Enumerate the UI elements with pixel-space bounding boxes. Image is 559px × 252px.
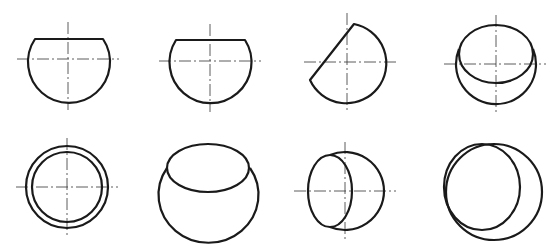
- view-3-oblique-truncated-sphere: [304, 13, 398, 112]
- view-1-truncated-sphere: [17, 22, 119, 110]
- projection-diagram: [0, 0, 559, 252]
- truncated-circle-outline: [169, 40, 251, 103]
- outer-circle: [446, 144, 542, 240]
- top-ellipse: [459, 25, 533, 83]
- inner-cut-ellipse: [444, 144, 520, 230]
- view-4-sphere-elliptic-cut: [444, 15, 546, 113]
- truncated-circle-outline: [28, 39, 110, 103]
- view-7-sphere-side-elliptic-cut: [294, 142, 396, 241]
- oblique-cut-outline: [310, 24, 386, 103]
- view-6-sphere-elliptic-opening: [159, 144, 259, 243]
- view-5-concentric-circles: [16, 138, 118, 237]
- top-ellipse: [167, 144, 249, 192]
- view-8-sphere-offset-cut: [444, 144, 542, 240]
- view-2-truncated-sphere: [159, 24, 261, 112]
